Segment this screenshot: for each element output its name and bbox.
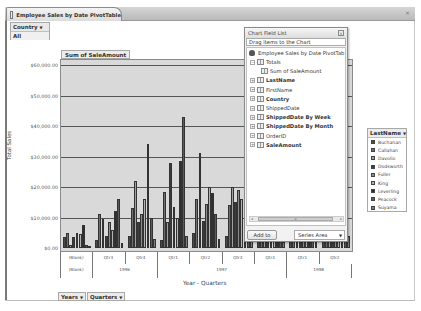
dropdown-arrow-icon[interactable]: ▼ — [40, 25, 43, 30]
x-group-label: 1998 — [286, 267, 351, 272]
bar[interactable] — [153, 239, 156, 248]
category-field-label: Years — [61, 294, 78, 300]
field-label: ShippedDate By Month — [266, 122, 333, 130]
chart-field-list-panel: Chart Field List × Drag items to the Cha… — [244, 27, 348, 242]
legend-swatch-icon — [371, 181, 375, 185]
series-legend: LastName▼ BuchananCallahanDavolioDodswor… — [367, 128, 407, 212]
bar[interactable] — [282, 242, 285, 248]
series-field-label: LastName — [370, 130, 401, 136]
axis-separator — [157, 252, 158, 264]
expand-icon[interactable]: + — [250, 96, 255, 101]
dropdown-arrow-icon[interactable]: ▼ — [339, 231, 342, 240]
field-list-item[interactable]: +Country — [250, 95, 289, 103]
x-axis-years: (Blank)199619971998 — [60, 266, 353, 276]
legend-item[interactable]: Fuller — [368, 171, 406, 179]
add-to-button[interactable]: Add to — [247, 230, 277, 240]
legend-item[interactable]: Davolio — [368, 154, 406, 162]
legend-swatch-icon — [371, 148, 375, 152]
field-list-item[interactable]: +OrderID — [250, 132, 286, 140]
filter-field-button[interactable]: Country▼ — [11, 23, 49, 32]
field-list-title: Chart Field List — [248, 30, 287, 36]
legend-label: Fuller — [378, 172, 391, 177]
field-icon — [257, 133, 264, 139]
document-tab[interactable]: Employee Sales by Date PivotTable — [6, 7, 122, 21]
close-icon[interactable]: × — [338, 30, 344, 36]
bar[interactable] — [182, 117, 185, 248]
axis-separator — [60, 252, 61, 264]
x-group-label: 1997 — [157, 267, 286, 272]
pivotchart-window: Employee Sales by Date PivotTable × Coun… — [0, 0, 421, 311]
axis-separator — [60, 264, 61, 278]
close-icon[interactable]: × — [404, 9, 411, 16]
bar[interactable] — [185, 236, 188, 248]
scrollbar-thumb[interactable]: ≡ — [258, 217, 333, 221]
category-field-years[interactable]: Years▼ — [58, 292, 86, 301]
dropdown-arrow-icon[interactable]: ▼ — [80, 295, 83, 300]
bar[interactable] — [117, 199, 120, 248]
expand-icon[interactable]: + — [250, 133, 255, 138]
y-tick-label: $60,000.00 — [18, 63, 58, 68]
expand-icon[interactable]: + — [250, 106, 255, 111]
expand-icon[interactable]: + — [250, 87, 255, 92]
field-icon — [257, 105, 264, 111]
field-icon — [261, 68, 268, 74]
x-tick-label: Qtr1 — [157, 255, 189, 260]
legend-label: Leverling — [378, 189, 399, 194]
x-tick-label: Qtr2 — [189, 255, 221, 260]
axis-separator — [92, 264, 93, 278]
x-axis-title: Year - Quarters — [183, 280, 226, 286]
legend-item[interactable]: Callahan — [368, 146, 406, 154]
legend-item[interactable]: King — [368, 179, 406, 187]
tree-root[interactable]: Employee Sales by Date PivotTab — [249, 49, 344, 57]
bar[interactable] — [88, 246, 91, 248]
field-list-tree: Employee Sales by Date PivotTab ◂ ≡ ▸ −T… — [246, 47, 346, 226]
expand-icon[interactable]: + — [250, 78, 255, 83]
expand-icon[interactable]: + — [250, 115, 255, 120]
field-list-item[interactable]: +FirstName — [250, 86, 292, 94]
category-field-quarters[interactable]: Quarters▼ — [87, 292, 125, 301]
horizontal-scrollbar[interactable]: ◂ ≡ ▸ — [249, 216, 344, 222]
field-icon — [257, 77, 264, 83]
axis-separator — [189, 252, 190, 264]
field-list-title-bar[interactable]: Chart Field List × — [245, 28, 347, 38]
data-field-button[interactable]: Sum of SaleAmount — [61, 50, 130, 59]
dropdown-arrow-icon[interactable]: ▼ — [119, 295, 122, 300]
tree-root-label: Employee Sales by Date PivotTab — [258, 49, 344, 57]
expand-icon[interactable]: + — [250, 124, 255, 129]
axis-separator — [319, 252, 320, 264]
legend-item[interactable]: Peacock — [368, 195, 406, 203]
legend-swatch-icon — [371, 165, 375, 169]
dropdown-arrow-icon[interactable]: ▼ — [403, 131, 406, 136]
x-tick-label: Qtr3 — [222, 255, 254, 260]
filter-field-country[interactable]: Country▼ All — [10, 22, 50, 40]
bar[interactable] — [121, 243, 124, 248]
scroll-left-icon[interactable]: ◂ — [251, 217, 253, 221]
field-list-item[interactable]: Sum of SaleAmount — [261, 67, 321, 75]
area-select[interactable]: Series Area ▼ — [294, 230, 345, 240]
legend-item[interactable]: Leverling — [368, 187, 406, 195]
axis-separator — [351, 264, 352, 278]
legend-label: Suyama — [378, 205, 397, 210]
legend-items: BuchananCallahanDavolioDodsworthFullerKi… — [368, 138, 406, 212]
legend-swatch-icon — [371, 189, 375, 193]
category-field-buttons: Years▼ Quarters▼ — [58, 292, 126, 301]
field-list-item[interactable]: +ShippedDate By Month — [250, 122, 333, 130]
field-list-item[interactable]: +ShippedDate By Week — [250, 113, 331, 121]
field-list-item[interactable]: +SaleAmount — [250, 141, 301, 149]
x-tick-label: Qtr1 — [286, 255, 318, 260]
legend-swatch-icon — [371, 206, 375, 210]
field-list-item[interactable]: +ShippedDate — [250, 104, 300, 112]
scroll-right-icon[interactable]: ▸ — [340, 217, 342, 221]
expand-icon[interactable]: + — [250, 142, 255, 147]
bar[interactable] — [218, 239, 221, 248]
legend-swatch-icon — [371, 173, 375, 177]
legend-item[interactable]: Suyama — [368, 204, 406, 212]
field-list-item[interactable]: +LastName — [250, 76, 295, 84]
series-field-button[interactable]: LastName▼ — [368, 129, 406, 138]
field-list-item[interactable]: −Totals — [250, 58, 281, 66]
legend-item[interactable]: Dodsworth — [368, 163, 406, 171]
y-tick-label: $30,000.00 — [18, 155, 58, 160]
legend-item[interactable]: Buchanan — [368, 138, 406, 146]
collapse-icon[interactable]: − — [250, 60, 255, 65]
database-icon — [249, 50, 255, 56]
